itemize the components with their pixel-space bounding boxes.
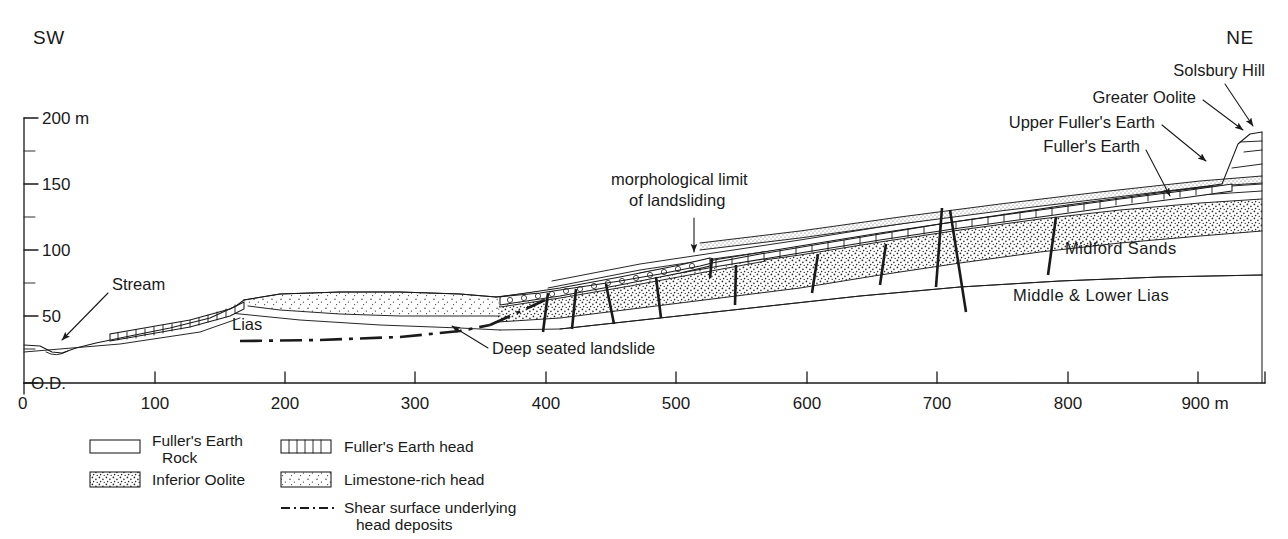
legend-swatch-inferior-oolite (90, 472, 140, 487)
crest-cap-line-2 (1244, 150, 1262, 152)
legend: Fuller's Earth Rock Inferior Oolite Full… (90, 432, 516, 533)
annotation-deep-seated-landslide: Deep seated landslide (492, 339, 655, 357)
legend-label-shear-surface-line2: head deposits (356, 516, 453, 533)
legend-label-limestone-rich-head: Limestone-rich head (344, 471, 484, 488)
legend-label-fullers-earth-head: Fuller's Earth head (344, 438, 474, 455)
x-tick-label-600: 600 (793, 394, 821, 413)
leader-stream (62, 293, 108, 340)
x-tick-label-800: 800 (1054, 394, 1082, 413)
annotation-stream: Stream (112, 275, 165, 293)
annotation-greater-oolite: Greater Oolite (1092, 88, 1196, 106)
compass-label-ne: NE (1226, 27, 1253, 48)
annotation-upper-fullers-earth: Upper Fuller's Earth (1009, 113, 1155, 131)
x-tick-label-900: 900 m (1181, 394, 1228, 413)
x-tick-label-500: 500 (662, 394, 690, 413)
y-tick-label-150: 150 (42, 175, 70, 194)
legend-label-fullers-earth-rock-line2: Rock (162, 449, 198, 466)
annotation-middle-lower-lias: Middle & Lower Lias (1013, 286, 1169, 304)
x-tick-label-700: 700 (923, 394, 951, 413)
legend-label-fullers-earth-rock-line1: Fuller's Earth (152, 432, 243, 449)
x-tick-label-0: 0 (18, 394, 27, 413)
y-tick-label-200: 200 m (42, 109, 89, 128)
annotation-lias: Lias (232, 315, 262, 333)
legend-label-shear-surface-line1: Shear surface underlying (344, 499, 516, 516)
legend-swatch-fullers-earth-rock (90, 440, 140, 453)
x-tick-label-100: 100 (141, 394, 169, 413)
annotation-solsbury-hill: Solsbury Hill (1173, 61, 1265, 79)
geological-cross-section-figure: SW NE 200 m 150 100 50 O.D. (0, 0, 1288, 539)
crest-cap-line-3 (1232, 164, 1262, 168)
x-axis (24, 372, 1265, 394)
legend-label-inferior-oolite: Inferior Oolite (152, 471, 245, 488)
annotation-morphological-limit-line2: of landsliding (629, 191, 725, 209)
x-tick-label-200: 200 (271, 394, 299, 413)
limestone-rich-head-plateau (244, 292, 500, 316)
compass-label-sw: SW (33, 27, 65, 48)
y-axis (24, 118, 38, 383)
annotation-midford-sands: Midford Sands (1065, 239, 1177, 257)
legend-swatch-fullers-earth-head (281, 440, 331, 453)
x-tick-label-300: 300 (401, 394, 429, 413)
x-tick-label-400: 400 (532, 394, 560, 413)
y-tick-label-50: 50 (42, 307, 61, 326)
crest-cap-base (1240, 141, 1262, 142)
leader-upper-fullers-earth (1162, 125, 1206, 161)
legend-swatch-limestone-rich-head (281, 472, 331, 487)
y-tick-label-100: 100 (42, 241, 70, 260)
leader-greater-oolite (1203, 100, 1243, 130)
annotation-morphological-limit-line1: morphological limit (611, 170, 748, 188)
cross-section-drawing: SW NE 200 m 150 100 50 O.D. (0, 0, 1288, 539)
annotation-fullers-earth: Fuller's Earth (1043, 137, 1140, 155)
